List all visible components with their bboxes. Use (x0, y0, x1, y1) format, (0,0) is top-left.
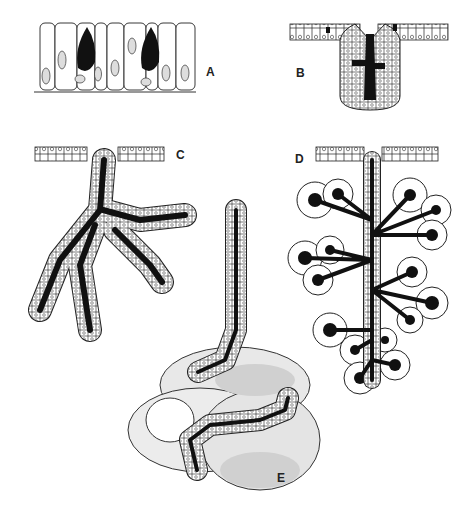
gland-types-illustration (0, 0, 471, 518)
panel-label-a: A (206, 65, 215, 79)
panel-label-e: E (277, 471, 285, 485)
panel-b-simple-tubular (290, 24, 448, 110)
panel-a-goblet-cells (34, 23, 196, 92)
panel-c-branched-tubular (35, 147, 185, 330)
panel-label-c: C (176, 148, 185, 162)
panel-d-compound-acinar (288, 147, 451, 394)
panel-label-d: D (295, 152, 304, 166)
panel-label-b: B (296, 66, 305, 80)
